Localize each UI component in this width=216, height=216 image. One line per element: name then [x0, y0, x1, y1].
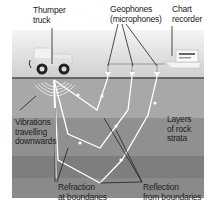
- refraction-label: Refraction at boundaries: [58, 183, 107, 202]
- vibrations-label: Vibrations travelling downwards: [15, 118, 56, 147]
- layers-label: Layers of rock strata: [167, 115, 191, 144]
- geophones-label: Geophones (microphones): [110, 5, 162, 24]
- reflection-label: Reflection from boundaries: [143, 183, 201, 202]
- seismic-survey-diagram: Thumper truck Geophones (microphones) Ch…: [0, 0, 216, 216]
- chart-recorder-label: Chart recorder: [172, 5, 202, 24]
- rock-layer-1: [12, 78, 204, 118]
- thumper-truck-label: Thumper truck: [33, 6, 66, 25]
